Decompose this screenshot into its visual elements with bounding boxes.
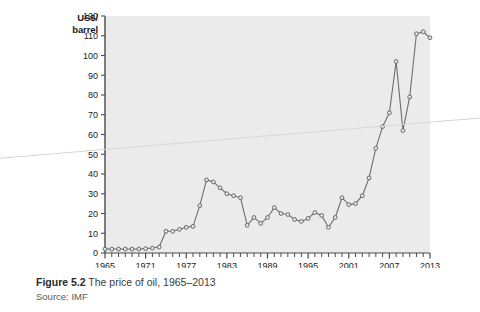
svg-text:50: 50 [88, 150, 98, 160]
caption-source: Source: IMF [36, 290, 436, 303]
caption-main: Figure 5.2 The price of oil, 1965–2013 [36, 276, 436, 289]
svg-text:1989: 1989 [257, 261, 277, 268]
svg-text:100: 100 [83, 51, 98, 61]
svg-text:1983: 1983 [217, 261, 237, 268]
y-axis-tick-labels: 0102030405060708090100110120 [83, 11, 98, 258]
svg-text:110: 110 [84, 31, 98, 41]
svg-text:20: 20 [88, 209, 98, 219]
svg-text:40: 40 [88, 169, 98, 179]
svg-text:1971: 1971 [136, 261, 156, 268]
svg-text:2007: 2007 [379, 261, 399, 268]
svg-text:70: 70 [88, 110, 98, 120]
svg-text:1965: 1965 [95, 261, 115, 268]
svg-text:1995: 1995 [298, 261, 318, 268]
svg-text:80: 80 [88, 90, 98, 100]
figure-caption: Figure 5.2 The price of oil, 1965–2013 S… [36, 276, 436, 303]
chart-plot: 0102030405060708090100110120 19651971197… [0, 0, 444, 268]
svg-text:1977: 1977 [176, 261, 196, 268]
x-axis-ticks [105, 253, 430, 259]
svg-text:0: 0 [93, 248, 98, 258]
caption-title: The price of oil, 1965–2013 [86, 276, 216, 288]
oil-price-chart: US$/ barrel 0102030405060708090100110120… [0, 0, 444, 268]
svg-text:30: 30 [88, 189, 98, 199]
figure-number: Figure 5.2 [36, 276, 86, 288]
svg-text:2001: 2001 [339, 261, 359, 268]
svg-text:60: 60 [88, 130, 98, 140]
svg-text:2013: 2013 [420, 261, 440, 268]
x-axis-tick-labels: 196519711977198319891995200120072013 [95, 261, 440, 268]
svg-text:90: 90 [88, 71, 98, 81]
svg-text:120: 120 [83, 11, 98, 21]
svg-text:10: 10 [88, 229, 98, 239]
